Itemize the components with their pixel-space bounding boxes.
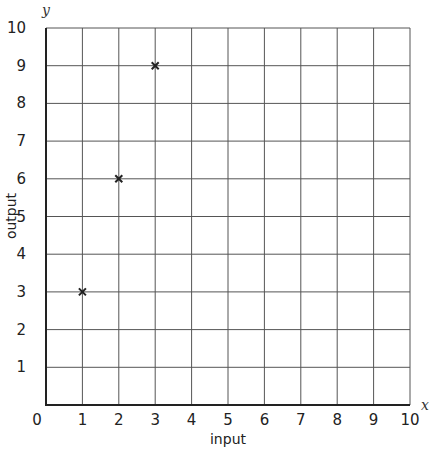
y-tick-label: 6 [16,170,26,188]
y-axis-label: output [3,192,19,239]
x-tick-label: 10 [400,411,419,429]
x-variable-label: x [421,397,429,413]
x-tick-labels: 012345678910 [32,411,419,429]
y-tick-label: 7 [16,132,26,150]
x-tick-label: 9 [369,411,379,429]
x-tick-label: 5 [223,411,233,429]
coordinate-grid-chart: 012345678910 12345678910 input output x … [0,0,434,454]
x-tick-label: 3 [150,411,160,429]
y-tick-label: 3 [16,283,26,301]
x-tick-label: 0 [32,411,42,429]
x-tick-label: 8 [332,411,342,429]
y-tick-label: 1 [16,358,26,376]
x-tick-label: 1 [78,411,88,429]
grid-lines [46,28,410,405]
y-tick-label: 4 [16,245,26,263]
y-tick-label: 10 [7,19,26,37]
y-tick-label: 8 [16,94,26,112]
x-tick-label: 6 [260,411,270,429]
x-tick-label: 2 [114,411,124,429]
x-tick-label: 7 [296,411,306,429]
x-axis-label: input [210,431,247,447]
y-tick-label: 9 [16,57,26,75]
y-tick-label: 2 [16,321,26,339]
x-tick-label: 4 [187,411,197,429]
y-variable-label: y [41,2,51,18]
